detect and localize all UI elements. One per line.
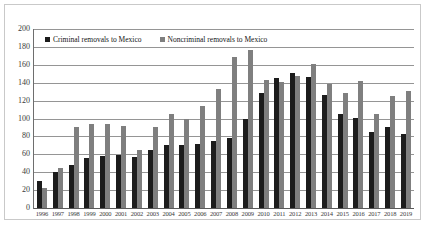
bar-group-2003: [145, 29, 161, 208]
bar-noncriminal-2002[interactable]: [137, 150, 142, 208]
bar-noncriminal-2001[interactable]: [121, 126, 126, 208]
bar-noncriminal-2018[interactable]: [390, 96, 395, 208]
bar-group-1996: [34, 29, 50, 208]
legend-entry-noncriminal[interactable]: Noncriminal removals to Mexico: [160, 35, 268, 44]
x-tick-label-2014: 2014: [319, 210, 335, 218]
bar-group-2006: [192, 29, 208, 208]
bar-noncriminal-1997[interactable]: [58, 168, 63, 208]
bar-noncriminal-2017[interactable]: [374, 114, 379, 208]
x-tick-label-2003: 2003: [145, 210, 161, 218]
x-tick-label-2012: 2012: [287, 210, 303, 218]
x-tick-label-2001: 2001: [113, 210, 129, 218]
x-tick-label-2013: 2013: [303, 210, 319, 218]
y-tick-label-0: 0: [6, 204, 30, 212]
bar-group-2011: [271, 29, 287, 208]
x-tick-label-2002: 2002: [129, 210, 145, 218]
x-tick-label-2019: 2019: [398, 210, 414, 218]
x-tick-label-2010: 2010: [256, 210, 272, 218]
legend-swatch-icon-criminal: [45, 37, 50, 42]
bar-group-2002: [129, 29, 145, 208]
bar-group-2016: [351, 29, 367, 208]
bar-noncriminal-2008[interactable]: [232, 57, 237, 208]
x-tick-label-2007: 2007: [208, 210, 224, 218]
bar-group-2019: [398, 29, 414, 208]
x-tick-label-2009: 2009: [240, 210, 256, 218]
chart-legend: Criminal removals to MexicoNoncriminal r…: [45, 35, 267, 44]
y-tick-label-180: 180: [6, 43, 30, 51]
bar-noncriminal-2012[interactable]: [295, 76, 300, 208]
y-tick-label-60: 60: [6, 150, 30, 158]
x-tick-label-1999: 1999: [81, 210, 97, 218]
x-tick-label-1996: 1996: [34, 210, 50, 218]
bar-group-2013: [303, 29, 319, 208]
bar-group-1997: [50, 29, 66, 208]
y-tick-label-20: 20: [6, 186, 30, 194]
x-tick-label-2011: 2011: [271, 210, 287, 218]
bar-noncriminal-1999[interactable]: [89, 124, 94, 208]
bar-group-2014: [319, 29, 335, 208]
y-tick-label-160: 160: [6, 61, 30, 69]
bar-group-2001: [113, 29, 129, 208]
y-axis-tick-labels: 200180160140120100806040200: [5, 29, 30, 208]
bar-group-2005: [176, 29, 192, 208]
legend-entry-criminal[interactable]: Criminal removals to Mexico: [45, 35, 142, 44]
x-tick-label-1997: 1997: [50, 210, 66, 218]
y-tick-label-200: 200: [6, 25, 30, 33]
bar-noncriminal-2015[interactable]: [343, 93, 348, 208]
bar-group-2009: [240, 29, 256, 208]
x-tick-label-2015: 2015: [335, 210, 351, 218]
legend-swatch-icon-noncriminal: [160, 37, 165, 42]
bar-noncriminal-2000[interactable]: [105, 124, 110, 208]
x-tick-label-2008: 2008: [224, 210, 240, 218]
x-tick-label-2017: 2017: [366, 210, 382, 218]
bar-group-2012: [287, 29, 303, 208]
y-tick-label-120: 120: [6, 97, 30, 105]
bar-noncriminal-2004[interactable]: [169, 114, 174, 208]
bar-noncriminal-2014[interactable]: [327, 84, 332, 208]
y-tick-label-80: 80: [6, 132, 30, 140]
bar-noncriminal-2019[interactable]: [406, 91, 411, 208]
bar-series-container: [34, 29, 414, 208]
x-tick-label-2005: 2005: [176, 210, 192, 218]
bar-noncriminal-2003[interactable]: [153, 127, 158, 208]
x-tick-label-2016: 2016: [351, 210, 367, 218]
x-tick-label-2006: 2006: [192, 210, 208, 218]
bar-noncriminal-2009[interactable]: [248, 50, 253, 208]
bar-noncriminal-2011[interactable]: [279, 82, 284, 208]
bar-noncriminal-2016[interactable]: [358, 81, 363, 208]
gridline-0: [33, 208, 414, 209]
bar-group-1998: [66, 29, 82, 208]
y-tick-label-100: 100: [6, 115, 30, 123]
x-axis-tick-labels: 1996199719981999200020012002200320042005…: [34, 210, 414, 218]
x-tick-label-1998: 1998: [66, 210, 82, 218]
bar-noncriminal-2010[interactable]: [264, 80, 269, 208]
chart-frame: 200180160140120100806040200 199619971998…: [4, 4, 421, 220]
bar-noncriminal-2013[interactable]: [311, 64, 316, 208]
y-tick-label-140: 140: [6, 79, 30, 87]
bar-noncriminal-1998[interactable]: [74, 127, 79, 208]
bar-group-2008: [224, 29, 240, 208]
legend-label: Noncriminal removals to Mexico: [168, 35, 268, 44]
bar-group-2000: [97, 29, 113, 208]
bar-noncriminal-2006[interactable]: [200, 106, 205, 208]
x-tick-label-2004: 2004: [161, 210, 177, 218]
bar-noncriminal-2007[interactable]: [216, 89, 221, 208]
x-tick-label-2000: 2000: [97, 210, 113, 218]
legend-label: Criminal removals to Mexico: [53, 35, 142, 44]
bar-group-2010: [256, 29, 272, 208]
bar-group-1999: [81, 29, 97, 208]
y-tick-label-40: 40: [6, 168, 30, 176]
bar-group-2015: [335, 29, 351, 208]
bar-group-2018: [382, 29, 398, 208]
bar-group-2017: [366, 29, 382, 208]
bar-noncriminal-1996[interactable]: [42, 188, 47, 208]
bar-noncriminal-2005[interactable]: [184, 119, 189, 208]
bar-group-2007: [208, 29, 224, 208]
bar-group-2004: [161, 29, 177, 208]
x-tick-label-2018: 2018: [382, 210, 398, 218]
